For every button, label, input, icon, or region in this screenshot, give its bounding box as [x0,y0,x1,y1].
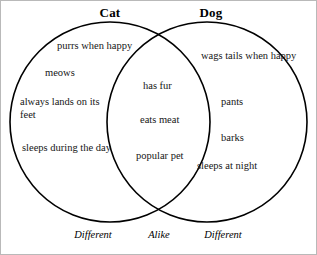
cat-only-item: purrs when happy [57,40,167,53]
cat-heading: Cat [75,6,145,20]
cat-only-item: meows [45,67,115,80]
shared-item: has fur [143,80,203,93]
venn-diagram-page: Cat Dog purrs when happy meows always la… [0,0,317,255]
cat-only-item: always lands on its feet [20,96,115,121]
shared-item: eats meat [140,114,206,127]
bottom-label-different-left: Different [58,229,128,241]
cat-only-item: sleeps during the day [22,142,117,155]
dog-only-item: barks [221,132,281,145]
bottom-label-different-right: Different [188,229,258,241]
dog-heading: Dog [176,6,246,20]
venn-circles-graphic [0,0,317,255]
dog-only-item: sleeps at night [197,160,297,173]
dog-only-item: pants [221,96,281,109]
bottom-label-alike: Alike [133,229,185,241]
dog-only-item: wags tails when happy [201,50,301,63]
